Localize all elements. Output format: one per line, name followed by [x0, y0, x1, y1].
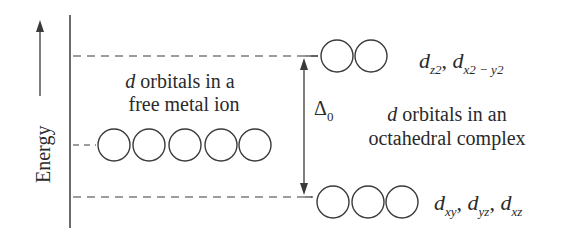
free-ion-label-line2: free metal ion [128, 93, 239, 115]
free-ion-orbitals [98, 129, 271, 161]
orbital-circle [352, 186, 384, 218]
orbital-circle [169, 129, 201, 161]
orbital-circle [386, 186, 418, 218]
orbital-circle [321, 40, 353, 72]
complex-label-line2: octahedral complex [368, 127, 525, 150]
energy-axis-label: Energy [32, 126, 55, 183]
t2g-orbital-labels: dxy, dyz, dxz [434, 190, 522, 219]
delta-o-label: Δ0 [314, 97, 333, 124]
delta-o-arrow [300, 58, 308, 195]
orbital-circle [317, 186, 349, 218]
orbital-circle [205, 129, 237, 161]
crystal-field-splitting-diagram: Energy d orbitals in a free metal ion Δ0… [0, 0, 562, 237]
energy-arrow [36, 20, 44, 96]
orbital-circle [355, 40, 387, 72]
orbital-circle [239, 129, 271, 161]
t2g-orbitals [317, 186, 418, 218]
eg-orbitals [321, 40, 387, 72]
eg-orbital-labels: dz2, dx2 − y2 [419, 48, 504, 77]
complex-label-line1: d orbitals in an [387, 103, 506, 125]
orbital-circle [98, 129, 130, 161]
free-ion-label-line1: d orbitals in a [125, 70, 235, 92]
orbital-circle [133, 129, 165, 161]
